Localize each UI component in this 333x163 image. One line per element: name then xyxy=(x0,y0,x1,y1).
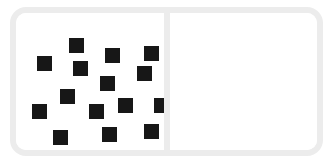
domino-pip xyxy=(37,56,52,71)
domino-half-right xyxy=(170,13,317,150)
domino-pip xyxy=(144,46,159,61)
domino-pip xyxy=(100,76,115,91)
domino-pip xyxy=(144,124,159,139)
domino-pip xyxy=(118,98,133,113)
domino-pip xyxy=(89,104,104,119)
domino-tile-inner xyxy=(16,13,317,150)
domino-pip xyxy=(60,89,75,104)
domino-pip xyxy=(73,61,88,76)
domino-pip xyxy=(137,66,152,81)
domino-pip xyxy=(105,48,120,63)
domino-pip xyxy=(102,127,117,142)
domino-pip xyxy=(53,130,68,145)
domino-pip xyxy=(32,104,47,119)
domino-pip xyxy=(69,38,84,53)
domino-tile xyxy=(10,7,323,156)
domino-half-left xyxy=(16,13,164,150)
